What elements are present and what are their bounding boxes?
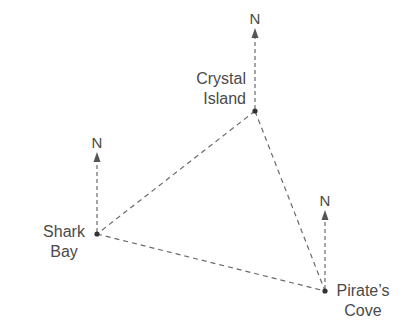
label-pirates-cove: Pirate’s Cove [330,281,396,321]
label-line: Bay [38,242,90,262]
north-label: N [318,193,332,209]
north-label: N [90,135,104,151]
north-arrow-icon [94,152,101,232]
edge-crystal-shark [97,111,255,234]
edge-crystal-pirate [255,111,325,291]
point-crystal-island [252,108,257,113]
label-line: Island [180,89,246,109]
label-crystal-island: Crystal Island [180,69,246,109]
north-arrow-icon [252,28,259,109]
point-pirates-cove [322,288,327,293]
north-label: N [248,11,262,27]
label-shark-bay: Shark Bay [38,222,90,262]
edge-shark-pirate [97,234,325,291]
north-arrow-icon [322,210,329,289]
bearing-diagram: N N N Crystal Island Shark Bay Pirate’s … [0,0,416,335]
label-line: Pirate’s [330,281,396,301]
label-line: Crystal [180,69,246,89]
label-line: Shark [38,222,90,242]
label-line: Cove [330,301,396,321]
point-shark-bay [94,231,99,236]
